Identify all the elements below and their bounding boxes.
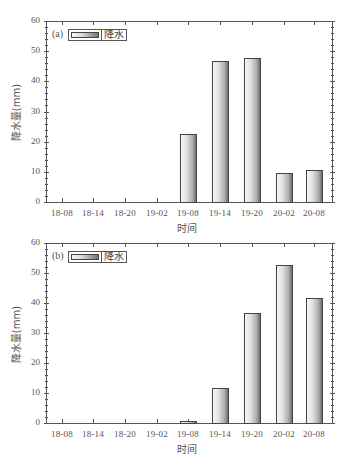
y-tick — [331, 285, 334, 286]
x-tick-label: 18-14 — [75, 429, 111, 439]
y-tick-label: 40 — [24, 297, 40, 307]
y-tick-label: 60 — [24, 237, 40, 247]
x-tick-label: 19-08 — [170, 429, 206, 439]
y-tick — [45, 285, 48, 286]
x-tick-top — [125, 21, 126, 25]
y-tick — [45, 160, 48, 161]
y-tick — [331, 45, 334, 46]
y-tick — [331, 184, 334, 185]
y-tick — [331, 196, 334, 197]
y-tick — [331, 321, 334, 322]
y-tick — [45, 351, 48, 352]
y-tick-label: 10 — [24, 166, 40, 176]
chart-panel-b: 010203040506018-0818-1418-2019-0219-0819… — [0, 221, 344, 451]
y-tick — [45, 411, 48, 412]
y-tick — [45, 345, 48, 346]
x-tick — [157, 198, 158, 203]
y-tick — [45, 27, 48, 28]
y-tick — [45, 105, 48, 106]
y-axis-label: 降水量(mm) — [8, 78, 23, 148]
y-tick — [331, 267, 334, 268]
x-tick-label: 20-08 — [296, 429, 332, 439]
y-tick — [45, 178, 48, 179]
y-tick — [44, 423, 49, 424]
y-tick — [45, 63, 48, 64]
x-tick-top — [62, 243, 63, 247]
x-tick-label: 19-20 — [234, 208, 270, 218]
y-tick-label: 40 — [24, 75, 40, 85]
y-tick — [44, 112, 49, 113]
y-tick — [45, 339, 48, 340]
y-tick — [45, 261, 48, 262]
y-tick — [45, 136, 48, 137]
x-tick — [125, 198, 126, 203]
y-tick — [44, 273, 49, 274]
y-tick — [331, 387, 334, 388]
y-tick — [45, 387, 48, 388]
legend-label: 降水 — [101, 252, 124, 262]
bar-19-08 — [180, 421, 197, 424]
y-tick — [331, 357, 334, 358]
y-tick — [331, 261, 334, 262]
x-tick — [93, 198, 94, 203]
y-tick — [45, 93, 48, 94]
y-tick — [331, 27, 334, 28]
y-tick — [331, 136, 334, 137]
x-tick-top — [157, 243, 158, 247]
y-tick — [331, 369, 334, 370]
y-tick — [331, 279, 334, 280]
y-tick — [45, 255, 48, 256]
x-tick-top — [220, 21, 221, 25]
y-tick — [45, 99, 48, 100]
y-tick — [331, 39, 334, 40]
y-tick — [330, 303, 335, 304]
x-tick-label: 20-08 — [296, 208, 332, 218]
y-tick — [331, 160, 334, 161]
x-tick — [157, 419, 158, 424]
y-tick — [331, 166, 334, 167]
bar-20-08 — [306, 170, 323, 203]
y-tick — [330, 51, 335, 52]
y-tick — [45, 148, 48, 149]
y-tick — [331, 375, 334, 376]
y-tick — [331, 339, 334, 340]
x-tick-top — [188, 243, 189, 247]
y-tick — [331, 69, 334, 70]
y-tick — [331, 411, 334, 412]
x-tick-label: 18-20 — [107, 429, 143, 439]
y-tick — [44, 243, 49, 244]
y-tick — [331, 105, 334, 106]
x-tick-top — [252, 243, 253, 247]
y-tick — [44, 81, 49, 82]
y-tick — [331, 124, 334, 125]
x-tick-top — [93, 243, 94, 247]
y-tick — [330, 112, 335, 113]
y-tick-label: 60 — [24, 15, 40, 25]
y-tick — [331, 315, 334, 316]
y-tick — [45, 249, 48, 250]
y-tick — [331, 345, 334, 346]
y-tick — [44, 363, 49, 364]
y-tick-label: 50 — [24, 45, 40, 55]
y-tick — [331, 118, 334, 119]
y-tick — [45, 375, 48, 376]
y-tick — [331, 154, 334, 155]
y-tick — [331, 57, 334, 58]
y-tick — [45, 45, 48, 46]
y-tick-label: 30 — [24, 327, 40, 337]
y-tick — [45, 297, 48, 298]
chart-panel-a: 010203040506018-0818-1418-2019-0219-0819… — [0, 0, 344, 230]
y-tick-label: 0 — [24, 417, 40, 427]
x-tick-label: 19-08 — [170, 208, 206, 218]
x-tick — [125, 419, 126, 424]
bar-20-02 — [276, 173, 293, 203]
x-tick-label: 18-14 — [75, 208, 111, 218]
y-tick — [45, 291, 48, 292]
bar-20-02 — [276, 265, 293, 424]
y-tick-label: 10 — [24, 387, 40, 397]
y-tick — [331, 351, 334, 352]
x-tick-top — [62, 21, 63, 25]
x-tick-top — [188, 21, 189, 25]
y-tick — [45, 190, 48, 191]
x-tick-top — [157, 21, 158, 25]
